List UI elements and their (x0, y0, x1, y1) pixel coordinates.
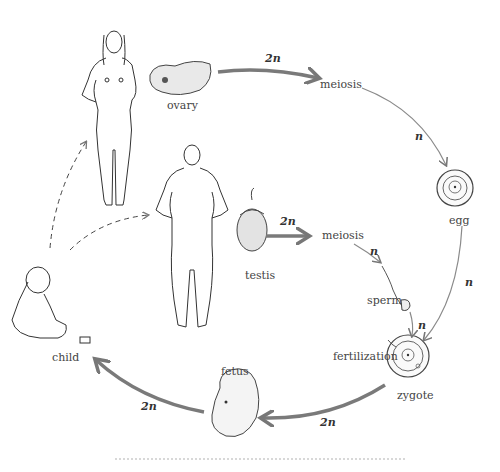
arrow-sperm-to-zygote (410, 312, 413, 336)
woman-figure (82, 31, 136, 205)
truncated-caption (115, 458, 405, 464)
arrow-egg-to-zygote (424, 226, 462, 340)
child-label: child (52, 351, 79, 364)
arrow-zygote-to-fetus (262, 385, 385, 418)
ploidy-testis-meiosis: 2n (280, 215, 296, 228)
egg-icon (437, 170, 473, 206)
ploidy-ovary-meiosis: 2n (265, 52, 281, 65)
arrow-meiosis-to-egg (362, 88, 446, 165)
child-figure (12, 267, 90, 343)
egg-label: egg (449, 214, 470, 227)
ovary-icon (150, 61, 211, 94)
ploidy-fetus-child: 2n (141, 400, 157, 413)
fertilization-label: fertilization (333, 350, 398, 363)
arrow-child-to-woman (50, 142, 86, 248)
man-figure (156, 145, 228, 327)
ploidy-zygote-fetus: 2n (320, 416, 336, 429)
meiosis-male-label: meiosis (322, 229, 364, 242)
arrow-child-to-man (70, 215, 148, 250)
ploidy-sperm-zygote: n (418, 319, 426, 332)
meiosis-female-label: meiosis (320, 78, 362, 91)
ploidy-meiosis-egg: n (415, 130, 423, 143)
ploidy-meiosis-sperm: n (370, 245, 378, 258)
ploidy-egg-zygote: n (465, 276, 473, 289)
testis-icon (237, 188, 267, 251)
arrow-ovary-to-meiosis (218, 70, 318, 78)
testis-label: testis (245, 269, 275, 282)
ovary-label: ovary (167, 99, 198, 112)
fetus-label: fetus (221, 365, 249, 378)
zygote-label: zygote (397, 389, 434, 402)
fetus-icon (212, 369, 259, 437)
sperm-label: sperm (367, 294, 402, 307)
